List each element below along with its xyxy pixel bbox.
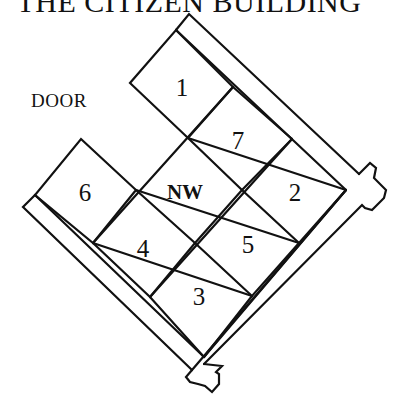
room-3-label: 3 [193, 283, 206, 310]
door-label: DOOR [31, 90, 87, 111]
room-4-label: 4 [137, 235, 150, 262]
room-nw-label: NW [167, 180, 203, 204]
room-2-label: 2 [289, 179, 302, 206]
room-5-label: 5 [242, 231, 255, 258]
room-7-label: 7 [232, 127, 245, 154]
room-1-label: 1 [176, 74, 189, 101]
floor-plan-diagram: THE CITIZEN BUILDING DOOR [0, 0, 403, 412]
outer-wall-right [176, 14, 386, 370]
room-6-label: 6 [79, 179, 92, 206]
